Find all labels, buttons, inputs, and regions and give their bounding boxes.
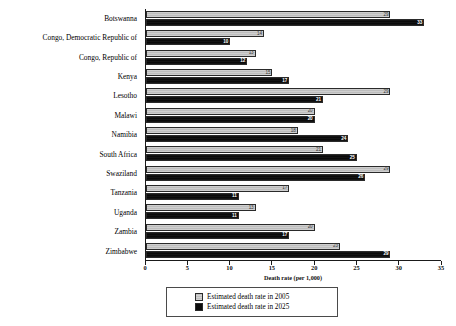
bar: 26 <box>146 174 365 181</box>
bar: 29 <box>146 166 390 173</box>
bar-group: 1824 <box>146 125 441 144</box>
bar-line: 10 <box>146 38 441 45</box>
legend-swatch-2005-icon <box>195 293 203 301</box>
bar: 21 <box>146 146 323 153</box>
bar-line: 14 <box>146 30 441 37</box>
plot-area: 2933141013121517292120201824212529261711… <box>145 9 441 261</box>
x-tick-label: 25 <box>353 264 359 271</box>
legend-item-2005: Estimated death rate in 2005 <box>167 292 337 302</box>
bar-group: 1410 <box>146 28 441 47</box>
x-tick-label: 30 <box>396 264 402 271</box>
bar-group: 2926 <box>146 164 441 183</box>
category-label: Congo, Democratic Republic of <box>0 28 142 47</box>
category-label: Uganda <box>0 203 142 222</box>
category-label: Swaziland <box>0 164 142 183</box>
bar-line: 29 <box>146 88 441 95</box>
bar-value-label: 21 <box>316 98 321 103</box>
bar-group: 2125 <box>146 144 441 163</box>
bar: 20 <box>146 224 315 231</box>
bar-line: 15 <box>146 69 441 76</box>
legend-label-2005: Estimated death rate in 2005 <box>207 293 289 301</box>
bar: 25 <box>146 154 357 161</box>
bar: 33 <box>146 19 424 26</box>
bar-value-label: 17 <box>282 186 287 191</box>
bar-value-label: 17 <box>282 233 287 238</box>
category-label: Zimbabwe <box>0 242 142 261</box>
category-label: Tanzania <box>0 184 142 203</box>
bar: 11 <box>146 212 239 219</box>
x-tick-label: 15 <box>269 264 275 271</box>
bar-group: 2017 <box>146 221 441 240</box>
bar: 17 <box>146 77 289 84</box>
bar-value-label: 20 <box>308 109 313 114</box>
bar-line: 20 <box>146 108 441 115</box>
bar-line: 29 <box>146 166 441 173</box>
bar-line: 17 <box>146 232 441 239</box>
bar-group: 1517 <box>146 67 441 86</box>
x-axis-tick-labels: 05101520253035 <box>145 264 441 274</box>
bar-group: 2020 <box>146 106 441 125</box>
x-tick-label: 5 <box>186 264 189 271</box>
bar-value-label: 13 <box>249 51 254 56</box>
bar-line: 17 <box>146 185 441 192</box>
bar-line: 29 <box>146 251 441 258</box>
bar: 10 <box>146 38 230 45</box>
bar: 11 <box>146 193 239 200</box>
category-label: Malawi <box>0 106 142 125</box>
bar-value-label: 20 <box>308 225 313 230</box>
bar-value-label: 15 <box>266 70 271 75</box>
bar-value-label: 21 <box>316 148 321 153</box>
bar-value-label: 13 <box>249 205 254 210</box>
bar-line: 20 <box>146 224 441 231</box>
bar: 13 <box>146 204 256 211</box>
chart-legend: Estimated death rate in 2005 Estimated d… <box>166 287 338 317</box>
x-tick-label: 20 <box>311 264 317 271</box>
bar-value-label: 12 <box>240 59 245 64</box>
bar: 23 <box>146 243 340 250</box>
bar: 17 <box>146 185 289 192</box>
bar: 20 <box>146 116 315 123</box>
bar-group: 2921 <box>146 86 441 105</box>
bar-value-label: 17 <box>282 78 287 83</box>
bar-line: 21 <box>146 96 441 103</box>
bar: 29 <box>146 251 390 258</box>
category-label: Zambia <box>0 222 142 241</box>
bar-value-label: 23 <box>333 244 338 249</box>
bar-value-label: 25 <box>350 156 355 161</box>
bar-line: 13 <box>146 204 441 211</box>
legend-item-2025: Estimated death rate in 2025 <box>167 302 337 312</box>
bar: 15 <box>146 69 272 76</box>
bar-rows: 2933141013121517292120201824212529261711… <box>146 9 441 260</box>
bar-group: 2329 <box>146 241 441 260</box>
bar-value-label: 10 <box>223 40 228 45</box>
bar-line: 11 <box>146 193 441 200</box>
bar-line: 33 <box>146 19 441 26</box>
bar-line: 20 <box>146 116 441 123</box>
bar-group: 1311 <box>146 202 441 221</box>
bar: 21 <box>146 96 323 103</box>
bar-value-label: 24 <box>341 136 346 141</box>
category-axis-labels: BotswannaCongo, Democratic Republic ofCo… <box>0 9 142 261</box>
bar-line: 11 <box>146 212 441 219</box>
bar-line: 23 <box>146 243 441 250</box>
bar-value-label: 20 <box>308 117 313 122</box>
x-tick-label: 0 <box>143 264 146 271</box>
legend-swatch-2025-icon <box>195 303 203 311</box>
category-label: Botswanna <box>0 9 142 28</box>
bar-value-label: 14 <box>257 32 262 37</box>
bar-group: 2933 <box>146 9 441 28</box>
category-label: Congo, Republic of <box>0 48 142 67</box>
bar-group: 1312 <box>146 48 441 67</box>
legend-label-2025: Estimated death rate in 2025 <box>207 303 289 311</box>
category-label: Namibia <box>0 125 142 144</box>
bar: 29 <box>146 88 390 95</box>
bar-group: 1711 <box>146 183 441 202</box>
bar: 29 <box>146 11 390 18</box>
bar-line: 26 <box>146 174 441 181</box>
bar-line: 18 <box>146 127 441 134</box>
bar-value-label: 33 <box>417 20 422 25</box>
bar-line: 12 <box>146 58 441 65</box>
bar-line: 29 <box>146 11 441 18</box>
x-tick-label: 10 <box>226 264 232 271</box>
bar: 12 <box>146 58 247 65</box>
